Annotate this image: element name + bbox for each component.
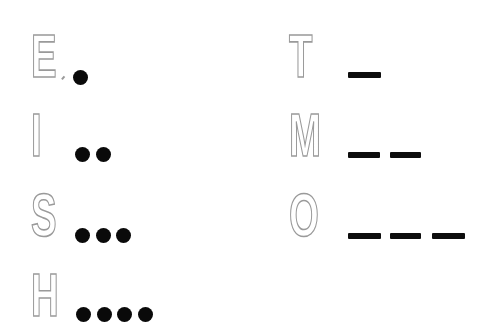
letter-t: T bbox=[289, 25, 312, 87]
letter-i: I bbox=[31, 104, 42, 166]
dash-icon bbox=[348, 233, 381, 239]
dot-icon bbox=[97, 307, 112, 322]
letter-o: O bbox=[289, 184, 319, 246]
dot-icon bbox=[96, 228, 111, 243]
dot-icon bbox=[116, 228, 131, 243]
dash-icon bbox=[390, 233, 421, 239]
dash-icon bbox=[348, 152, 380, 158]
letter-m: M bbox=[289, 104, 321, 166]
dot-icon bbox=[117, 307, 132, 322]
letter-h: H bbox=[31, 264, 59, 326]
stray-mark bbox=[61, 76, 65, 80]
letter-s: S bbox=[31, 184, 57, 246]
dash-icon bbox=[348, 72, 381, 78]
dot-icon bbox=[75, 228, 90, 243]
dot-icon bbox=[75, 147, 90, 162]
dot-icon bbox=[76, 307, 91, 322]
dash-icon bbox=[390, 152, 421, 158]
letter-e: E bbox=[31, 25, 57, 87]
dot-icon bbox=[73, 70, 88, 85]
dash-icon bbox=[432, 233, 465, 239]
dot-icon bbox=[138, 307, 153, 322]
dot-icon bbox=[96, 147, 111, 162]
